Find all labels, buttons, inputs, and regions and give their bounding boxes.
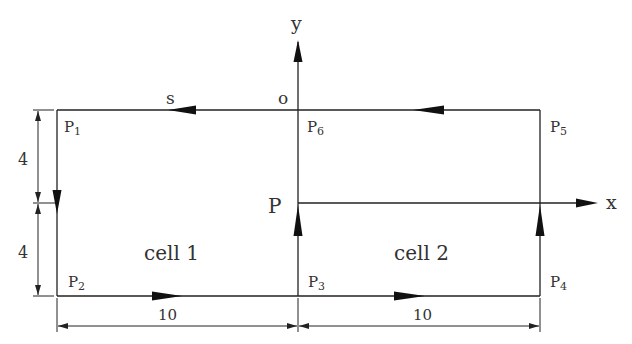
- dim-left-lower-value: 4: [18, 243, 28, 262]
- two-cell-diagram: y x o s P cell 1 cell 2 P1 P2 P3 P4 P5 P…: [0, 0, 632, 344]
- flow-arrow-bottom-right-icon: [394, 292, 425, 301]
- origin-label: o: [278, 88, 288, 108]
- point-label-p2: P2: [68, 273, 85, 293]
- point-label-p5: P5: [550, 118, 567, 138]
- dim-left-upper-value: 4: [18, 150, 28, 169]
- cell-2-label: cell 2: [394, 241, 449, 265]
- point-label-p3: P3: [308, 273, 325, 293]
- flow-arrow-mid-up-icon: [294, 205, 303, 236]
- x-axis-label: x: [606, 191, 617, 213]
- flow-label-s: s: [166, 88, 175, 108]
- y-axis-arrow-icon: [294, 40, 303, 62]
- flow-arrow-top-right-icon: [413, 106, 444, 115]
- point-label-p4: P4: [550, 273, 567, 293]
- y-axis-label: y: [290, 12, 302, 34]
- flow-arrow-bottom-left-icon: [152, 292, 182, 301]
- point-label-p1: P1: [64, 118, 81, 138]
- flow-arrow-left-down-icon: [53, 190, 62, 214]
- point-P-label: P: [268, 194, 281, 218]
- dim-bottom-right-value: 10: [413, 306, 432, 324]
- x-axis-arrow-icon: [576, 199, 598, 208]
- cell-1-label: cell 1: [144, 241, 199, 265]
- flow-arrow-right-up-icon: [536, 205, 545, 236]
- point-label-p6: P6: [307, 118, 324, 138]
- dim-bottom-left-value: 10: [158, 306, 177, 324]
